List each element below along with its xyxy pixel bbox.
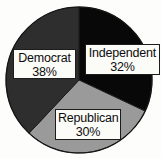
pie-label-republican: Republican 30%: [55, 109, 121, 140]
pie-label-independent-name: Independent: [88, 47, 157, 61]
pie-label-democrat: Democrat 38%: [13, 49, 76, 79]
pie-label-independent-percent: 32%: [88, 61, 157, 75]
pie-chart: Independent 32% Democrat 38% Republican …: [0, 0, 161, 158]
pie-label-independent: Independent 32%: [85, 44, 160, 75]
pie-label-democrat-name: Democrat: [16, 52, 73, 66]
pie-label-republican-percent: 30%: [58, 126, 118, 140]
pie-label-republican-name: Republican: [58, 112, 118, 126]
pie-label-democrat-percent: 38%: [16, 66, 73, 80]
